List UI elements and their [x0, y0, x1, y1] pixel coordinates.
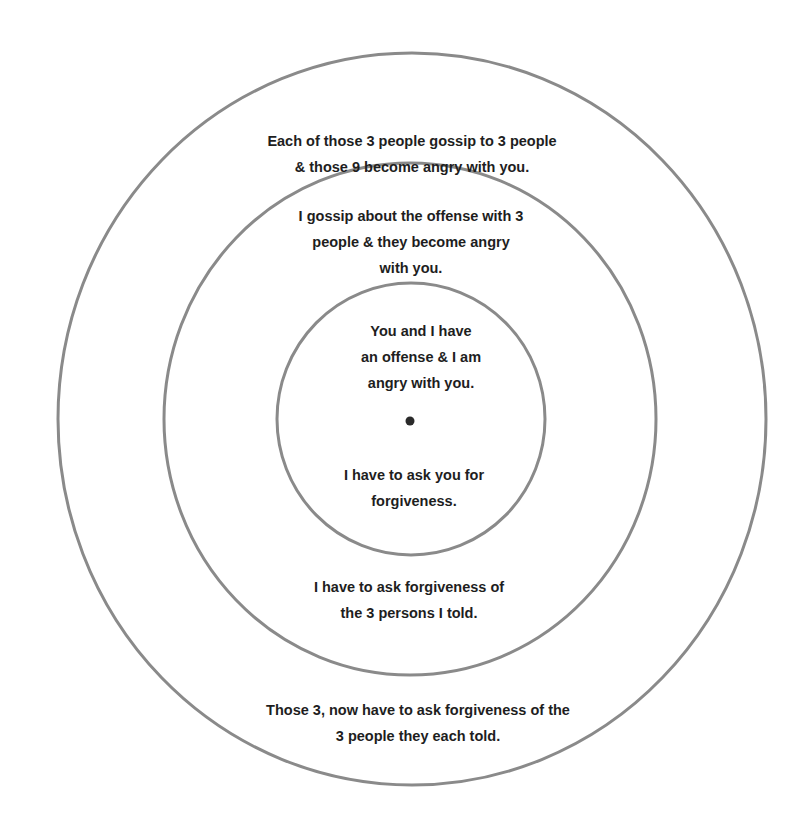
- text-line: I have to ask you for: [344, 462, 484, 488]
- outer-ring-top-text: Each of those 3 people gossip to 3 peopl…: [267, 128, 556, 180]
- concentric-circles-diagram: Each of those 3 people gossip to 3 peopl…: [0, 0, 802, 814]
- center-dot: [406, 417, 415, 426]
- text-line: & those 9 become angry with you.: [267, 154, 556, 180]
- text-line: angry with you.: [361, 370, 481, 396]
- middle-ring-top-text: I gossip about the offense with 3 people…: [299, 203, 524, 281]
- text-line: 3 people they each told.: [266, 723, 570, 749]
- inner-ring-top-text: You and I have an offense & I am angry w…: [361, 318, 481, 396]
- text-line: an offense & I am: [361, 344, 481, 370]
- text-line: with you.: [299, 255, 524, 281]
- text-line: forgiveness.: [344, 488, 484, 514]
- text-line: I gossip about the offense with 3: [299, 203, 524, 229]
- text-line: people & they become angry: [299, 229, 524, 255]
- text-line: You and I have: [361, 318, 481, 344]
- text-line: the 3 persons I told.: [314, 600, 504, 626]
- text-line: Those 3, now have to ask forgiveness of …: [266, 697, 570, 723]
- outer-ring-bottom-text: Those 3, now have to ask forgiveness of …: [266, 697, 570, 749]
- text-line: I have to ask forgiveness of: [314, 574, 504, 600]
- text-line: Each of those 3 people gossip to 3 peopl…: [267, 128, 556, 154]
- inner-ring-bottom-text: I have to ask you for forgiveness.: [344, 462, 484, 514]
- rings-graphic: [0, 0, 802, 814]
- middle-ring-bottom-text: I have to ask forgiveness of the 3 perso…: [314, 574, 504, 626]
